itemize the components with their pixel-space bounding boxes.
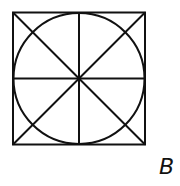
- figure-diagram: [0, 0, 180, 186]
- figure-label: B: [159, 156, 174, 178]
